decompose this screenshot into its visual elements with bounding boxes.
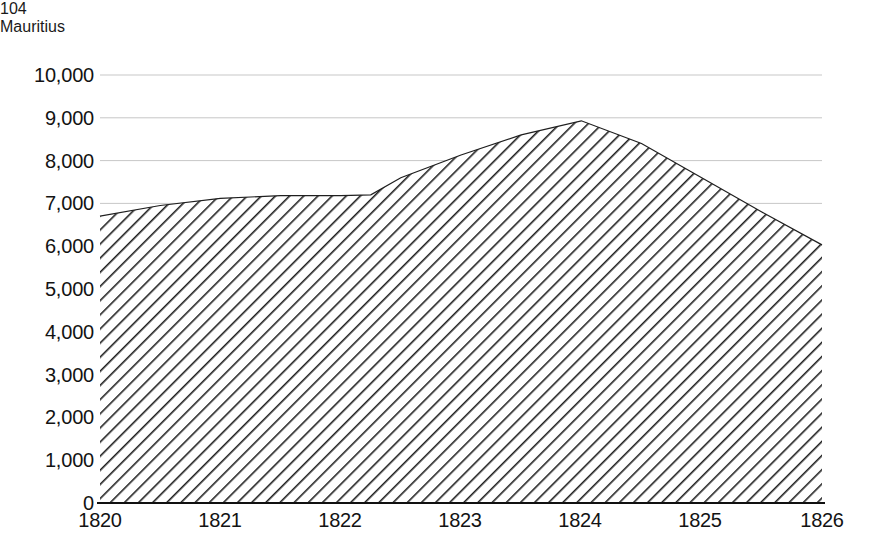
x-tick-label: 1820 <box>40 509 160 532</box>
page-header: 104 Mauritius <box>0 0 875 46</box>
page-title: Mauritius <box>0 18 875 36</box>
x-tick-label: 1826 <box>762 509 875 532</box>
x-tick-label: 1822 <box>280 509 400 532</box>
area-chart: 10,000 9,000 8,000 7,000 6,000 5,000 4,0… <box>0 46 875 560</box>
x-tick-label: 1823 <box>400 509 520 532</box>
x-tick-label: 1825 <box>640 509 760 532</box>
x-tick-label: 1824 <box>520 509 640 532</box>
page-number: 104 <box>0 0 875 18</box>
x-tick-label: 1821 <box>160 509 280 532</box>
x-axis: 1820 1821 1822 1823 1824 1825 1826 <box>0 46 875 560</box>
